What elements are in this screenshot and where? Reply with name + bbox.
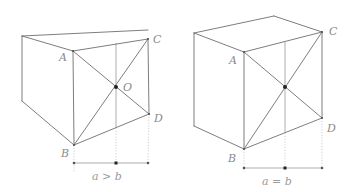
guide-d	[148, 114, 149, 163]
edge-top-right	[274, 16, 322, 32]
vertex-a	[72, 50, 74, 52]
dim-point	[73, 162, 76, 165]
edge-top-back	[194, 16, 274, 33]
label-o: O	[123, 81, 132, 94]
label-c: C	[329, 25, 338, 38]
edge-top-back	[22, 30, 148, 36]
edge-a-b	[73, 51, 74, 145]
vertex-c	[147, 38, 149, 40]
edge-bottom-left	[194, 126, 244, 149]
vertex-c	[321, 31, 323, 33]
vertex-o	[114, 85, 118, 89]
label-c: C	[153, 33, 162, 46]
caption-right: a = b	[262, 175, 292, 188]
diagonal-a-d	[73, 51, 149, 114]
label-b: B	[60, 147, 69, 160]
edge-bottom-left	[22, 101, 74, 145]
vertex-d	[321, 117, 323, 119]
dim-point	[243, 167, 246, 170]
label-b: B	[227, 152, 236, 165]
dim-point-mid	[115, 162, 118, 165]
cube-left: A C O D B a > b	[22, 30, 163, 183]
diagonal-a-d	[244, 52, 322, 118]
dim-point-mid	[284, 167, 287, 170]
dim-point	[321, 167, 324, 170]
vertex-b	[73, 144, 75, 146]
vertex-o	[283, 85, 287, 89]
cube-diagrams: A C O D B a > b A C D B a = b	[0, 0, 356, 192]
caption-left: a > b	[92, 170, 122, 183]
vertex-d	[148, 113, 150, 115]
vertex-b	[243, 148, 245, 150]
dim-point	[147, 162, 150, 165]
label-d: D	[153, 112, 163, 125]
edge-top-left-to-a	[194, 33, 244, 52]
cube-right: A C D B a = b	[194, 16, 338, 188]
label-d: D	[326, 122, 336, 135]
edge-b-d	[244, 118, 322, 149]
diagonal-b-c	[74, 39, 148, 145]
vertex-a	[243, 51, 245, 53]
label-a: A	[228, 54, 237, 67]
label-a: A	[58, 51, 67, 64]
edge-top-left-to-a	[22, 36, 73, 51]
edge-a-c	[73, 39, 148, 51]
diagonal-b-c	[244, 32, 322, 149]
edge-c-d	[148, 39, 149, 114]
